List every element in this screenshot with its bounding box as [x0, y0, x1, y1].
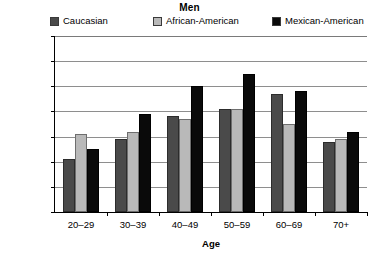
- bar: [347, 132, 359, 212]
- y-axis-tick-mark: [51, 212, 55, 213]
- bar: [191, 86, 203, 212]
- legend-item-mexican-american: Mexican-American: [272, 16, 364, 26]
- legend-swatch-mexican-american: [272, 17, 281, 26]
- bar-group: [315, 36, 367, 212]
- x-axis-tick-label: 50–59: [209, 220, 265, 230]
- x-axis-tick-mark: [263, 212, 264, 216]
- bar: [295, 91, 307, 212]
- bar: [127, 132, 139, 212]
- bar: [167, 116, 179, 212]
- bar: [63, 159, 75, 212]
- legend-label-african-american: African-American: [166, 16, 239, 26]
- bar-group: [263, 36, 315, 212]
- bar: [271, 94, 283, 212]
- legend-label-mexican-american: Mexican-American: [285, 16, 364, 26]
- legend-swatch-african-american: [153, 17, 162, 26]
- bar-group: [55, 36, 107, 212]
- chart-legend: Caucasian African-American Mexican-Ameri…: [50, 16, 370, 29]
- bar-groups: [55, 36, 367, 212]
- x-axis-tick-mark: [315, 212, 316, 216]
- bar-group: [159, 36, 211, 212]
- x-axis-tick-label: 30–39: [105, 220, 161, 230]
- legend-item-caucasian: Caucasian: [50, 16, 108, 26]
- bar: [139, 114, 151, 212]
- x-axis-tick-mark: [159, 212, 160, 216]
- x-axis-tick-mark: [107, 212, 108, 216]
- x-axis-tick-label: 20–29: [53, 220, 109, 230]
- x-axis-tick-label: 40–49: [157, 220, 213, 230]
- bar: [323, 142, 335, 212]
- bar-group: [107, 36, 159, 212]
- bar: [219, 109, 231, 212]
- bar-group: [211, 36, 263, 212]
- bar: [283, 124, 295, 212]
- x-axis-tick-label: 60–69: [261, 220, 317, 230]
- legend-label-caucasian: Caucasian: [63, 16, 108, 26]
- bar-chart: Men Caucasian African-American Mexican-A…: [0, 0, 379, 254]
- x-axis-tick-mark: [367, 212, 368, 216]
- bar: [87, 149, 99, 212]
- plot-area: 706050403020100 20–2930–3940–4950–5960–6…: [54, 36, 367, 213]
- x-axis-label: Age: [55, 238, 367, 249]
- legend-swatch-caucasian: [50, 17, 59, 26]
- bar: [179, 119, 191, 212]
- legend-item-african-american: African-American: [153, 16, 239, 26]
- bar: [231, 109, 243, 212]
- x-axis-tick-label: 70+: [313, 220, 369, 230]
- x-axis-tick-mark: [211, 212, 212, 216]
- bar: [243, 74, 255, 212]
- chart-title: Men: [0, 2, 379, 13]
- bar: [75, 134, 87, 212]
- bar: [335, 139, 347, 212]
- bar: [115, 139, 127, 212]
